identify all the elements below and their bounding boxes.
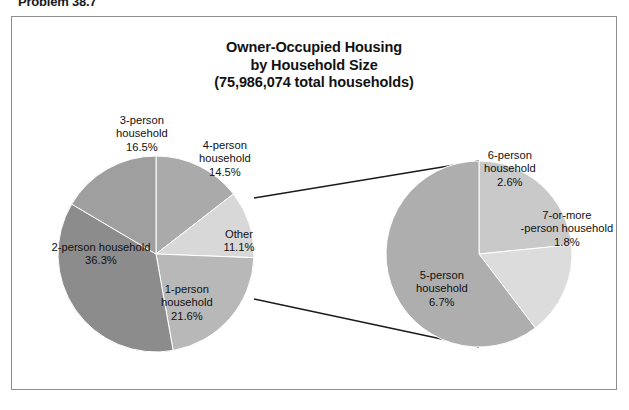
main-pie	[58, 156, 254, 352]
top-caption: Problem 38.7	[18, 0, 218, 8]
sub-pie	[386, 161, 572, 347]
pie-of-pie-plot	[12, 17, 616, 389]
sub-pie-slice-1[interactable]	[479, 161, 572, 254]
chart-frame: Owner-Occupied Housing by Household Size…	[11, 16, 617, 390]
